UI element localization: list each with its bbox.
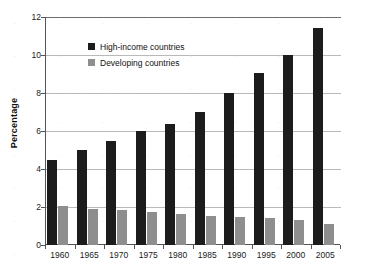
bar-developing	[117, 210, 127, 245]
x-axis-tick-labels: 1960196519701975198019851990199520002005	[45, 250, 340, 264]
bar-high-income	[106, 141, 116, 246]
bar-developing	[206, 216, 216, 245]
legend: High-income countriesDeveloping countrie…	[88, 40, 220, 72]
bar-group	[311, 17, 341, 245]
bar-high-income	[195, 112, 205, 245]
x-axis-tick-mark	[163, 245, 164, 249]
legend-swatch-icon	[88, 43, 95, 50]
bar-high-income	[165, 124, 175, 245]
bar-developing	[147, 212, 157, 245]
x-axis-tick-mark	[193, 245, 194, 249]
legend-item: High-income countries	[88, 40, 220, 53]
legend-item: Developing countries	[88, 56, 220, 69]
bar-developing	[265, 218, 275, 245]
bar-group	[45, 17, 75, 245]
bar-high-income	[77, 150, 87, 245]
bar-developing	[58, 206, 68, 245]
bar-high-income	[313, 28, 323, 245]
legend-item-label: High-income countries	[100, 42, 185, 52]
bar-developing	[235, 217, 245, 246]
bar-developing	[176, 214, 186, 245]
x-axis-tick-mark	[45, 245, 46, 249]
bar-high-income	[224, 93, 234, 245]
x-axis-tick-mark	[222, 245, 223, 249]
bar-high-income	[136, 131, 146, 245]
x-axis-tick-mark	[104, 245, 105, 249]
bar-high-income	[47, 160, 57, 246]
x-axis-tick-label: 2005	[305, 250, 345, 260]
x-axis-tick-mark	[134, 245, 135, 249]
bar-developing	[88, 209, 98, 245]
x-axis-tick-mark	[281, 245, 282, 249]
x-axis-tick-mark	[252, 245, 253, 249]
x-axis-tick-mark	[75, 245, 76, 249]
bar-high-income	[283, 55, 293, 245]
x-axis-tick-mark	[340, 245, 341, 249]
legend-swatch-icon	[88, 59, 95, 66]
bar-developing	[294, 220, 304, 245]
y-axis-tick-marks	[0, 17, 46, 245]
bar-developing	[324, 224, 334, 245]
bar-high-income	[254, 73, 264, 245]
legend-item-label: Developing countries	[100, 58, 179, 68]
x-axis-tick-mark	[311, 245, 312, 249]
bar-group	[281, 17, 311, 245]
bar-chart: Percentage 024681012 1960196519701975198…	[0, 0, 366, 276]
bar-group	[252, 17, 282, 245]
bar-group	[222, 17, 252, 245]
